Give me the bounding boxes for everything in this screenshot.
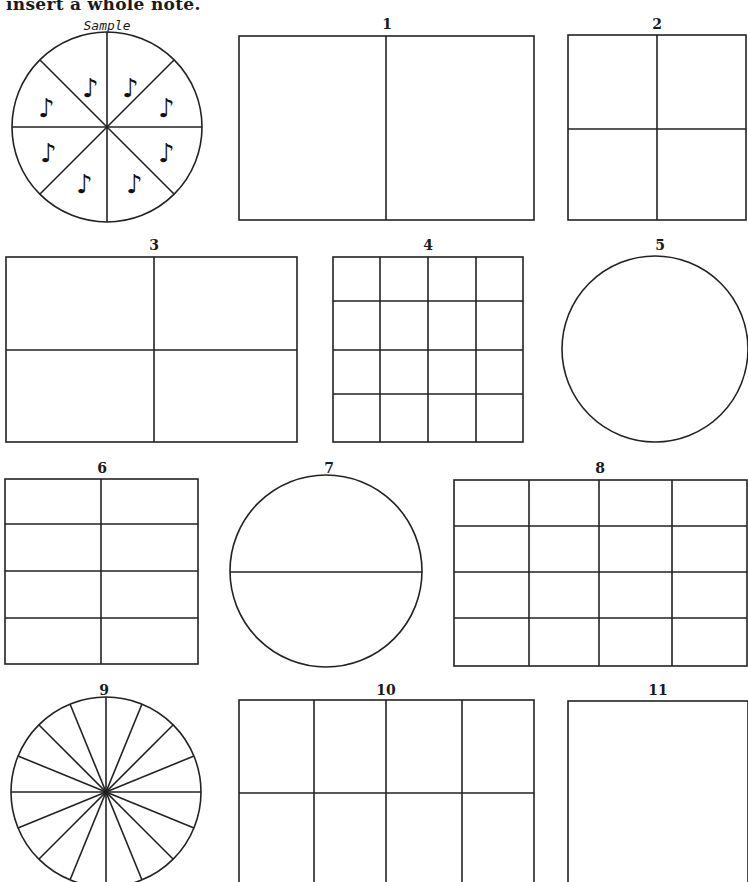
eighth-note-icon: ♪ bbox=[158, 93, 175, 123]
exercise-1-shape bbox=[239, 36, 534, 220]
exercise-5-shape bbox=[562, 256, 748, 442]
exercise-11-shape bbox=[568, 701, 748, 882]
exercise-6-shape bbox=[5, 479, 198, 664]
exercise-9-shape bbox=[11, 697, 201, 882]
exercise-8-shape bbox=[454, 480, 747, 666]
eighth-note-icon: ♪ bbox=[126, 169, 143, 199]
exercise-2-shape bbox=[568, 35, 746, 220]
eighth-note-icon: ♪ bbox=[122, 73, 139, 103]
exercise-7-shape bbox=[230, 475, 422, 667]
worksheet-canvas: ♪ ♪ ♪ ♪ ♪ ♪ ♪ ♪ bbox=[0, 0, 748, 882]
exercise-10-shape bbox=[239, 700, 534, 882]
eighth-note-icon: ♪ bbox=[82, 73, 99, 103]
sample-circle: ♪ ♪ ♪ ♪ ♪ ♪ ♪ ♪ bbox=[12, 32, 202, 222]
eighth-note-icon: ♪ bbox=[76, 169, 93, 199]
exercise-4-shape bbox=[333, 257, 523, 442]
exercise-3-shape bbox=[6, 257, 297, 442]
eighth-note-icon: ♪ bbox=[40, 138, 57, 168]
eighth-note-icon: ♪ bbox=[38, 93, 55, 123]
eighth-note-icon: ♪ bbox=[158, 138, 175, 168]
